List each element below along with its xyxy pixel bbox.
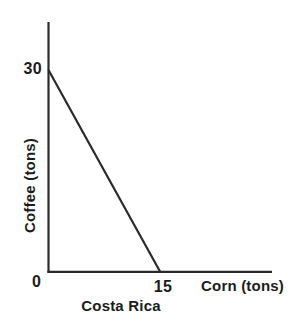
ppf-chart: 30 0 15 Corn (tons) Coffee (tons) Costa … [0, 0, 299, 330]
x-axis-tick-label-15: 15 [145, 279, 181, 295]
chart-caption: Costa Rica [72, 298, 170, 313]
origin-tick-label: 0 [8, 274, 41, 290]
y-axis-title: Coffee (tons) [22, 130, 37, 242]
y-axis-tick-label-30: 30 [8, 61, 42, 77]
x-axis-title: Corn (tons) [201, 278, 284, 293]
ppf-line [49, 70, 161, 272]
